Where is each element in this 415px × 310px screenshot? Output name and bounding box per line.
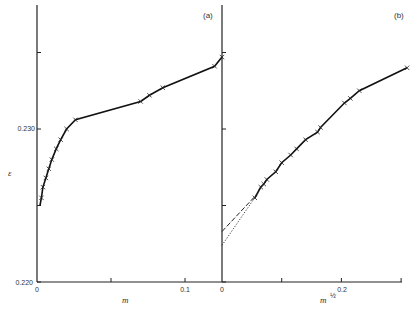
ticks <box>37 53 401 283</box>
xb-tick-label-0: 0 <box>220 286 224 293</box>
xa-tick-label-0: 0 <box>35 286 39 293</box>
y-tick-label-0230: 0.230 <box>17 125 35 132</box>
x-axis-label-b-exponent: ½ <box>330 292 336 299</box>
y-tick-label-0220: 0.220 <box>15 279 33 286</box>
panel-label-a: (a) <box>203 11 213 20</box>
axes <box>37 5 402 282</box>
x-axis-label-b: m <box>320 295 327 305</box>
xa-tick-label-01: 0.1 <box>180 286 190 293</box>
panel-label-b: (b) <box>394 11 404 20</box>
x-axis-label-a: m <box>122 295 129 305</box>
y-axis-label: ε <box>8 168 12 178</box>
chart-figure: 0.230 0.220 0 0.1 0 0.2 ε m m ½ (a) (b) <box>0 0 415 310</box>
xb-tick-label-02: 0.2 <box>337 286 347 293</box>
data-markers <box>39 55 409 200</box>
curves <box>40 57 407 245</box>
